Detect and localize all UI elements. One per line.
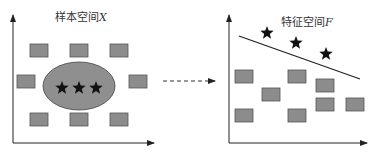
sample-square [316,79,334,92]
star-icon [289,36,302,49]
right-squares [235,70,364,122]
sample-square [110,113,128,126]
left-title: 样本空间X [55,8,107,24]
right-title: 特征空间F [281,13,333,29]
sample-square [70,113,88,126]
sample-square [316,98,334,111]
sample-square [262,88,280,101]
sample-square [129,75,147,88]
sample-square [288,70,306,83]
sample-square [235,109,253,122]
right-title-text: 特征空间 [281,16,325,29]
sample-square [346,98,364,111]
right-stars [260,26,332,60]
sample-square [70,44,88,57]
sample-square [235,70,253,83]
sample-square [30,113,48,126]
sample-square [17,75,35,88]
sample-square [110,44,128,57]
star-icon [260,26,273,39]
star-icon [319,47,332,60]
left-title-text: 样本空间 [55,11,99,24]
sample-square [30,44,48,57]
sample-square [288,109,306,122]
right-title-var: F [325,16,333,29]
left-title-var: X [99,11,107,24]
